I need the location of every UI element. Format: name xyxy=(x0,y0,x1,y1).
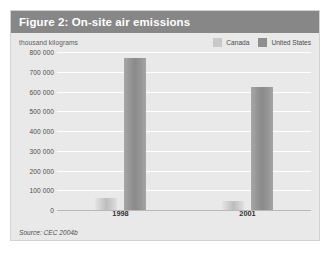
y-axis-tick-label: 500 000 xyxy=(29,108,54,115)
y-axis-tick-label: 200 000 xyxy=(29,167,54,174)
figure-header: Figure 2: On-site air emissions xyxy=(11,11,319,33)
page-title: Figure 2: On-site air emissions xyxy=(11,16,190,28)
y-axis-unit-label: thousand kilograms xyxy=(19,39,78,46)
plot-wrap: 0100 000200 000300 000400 000500 000600 … xyxy=(19,52,311,210)
plot-area xyxy=(57,52,311,210)
x-axis-tick-label: 1998 xyxy=(112,209,128,218)
bars-layer xyxy=(57,52,311,210)
figure-root: Figure 2: On-site air emissions thousand… xyxy=(0,0,330,258)
legend-swatch-canada xyxy=(213,38,222,47)
y-axis-tick-label: 800 000 xyxy=(29,49,54,56)
bar-group xyxy=(184,52,311,210)
chart-legend: CanadaUnited States xyxy=(213,38,311,47)
x-axis-tick-label: 2001 xyxy=(239,209,255,218)
legend-label: Canada xyxy=(226,39,249,46)
legend-item: Canada xyxy=(213,38,249,47)
bar-united-states-1998 xyxy=(124,58,146,210)
legend-label: United States xyxy=(271,39,311,46)
bar-group xyxy=(57,52,184,210)
y-axis-tick-label: 400 000 xyxy=(29,128,54,135)
chart-body: thousand kilograms CanadaUnited States 0… xyxy=(11,33,319,240)
source-note: Source: CEC 2004b xyxy=(19,229,78,236)
y-axis-tick-label: 100 000 xyxy=(29,187,54,194)
y-axis-tick-label: 700 000 xyxy=(29,68,54,75)
legend-swatch-united-states xyxy=(258,38,267,47)
bar-united-states-2001 xyxy=(251,87,273,210)
y-axis-tick-label: 300 000 xyxy=(29,147,54,154)
y-axis-labels: 0100 000200 000300 000400 000500 000600 … xyxy=(19,52,57,210)
legend-item: United States xyxy=(258,38,311,47)
figure-card: Figure 2: On-site air emissions thousand… xyxy=(10,10,320,241)
y-axis-tick-label: 600 000 xyxy=(29,88,54,95)
y-axis-tick-label: 0 xyxy=(50,207,54,214)
x-axis-labels: 19982001 xyxy=(57,209,311,221)
